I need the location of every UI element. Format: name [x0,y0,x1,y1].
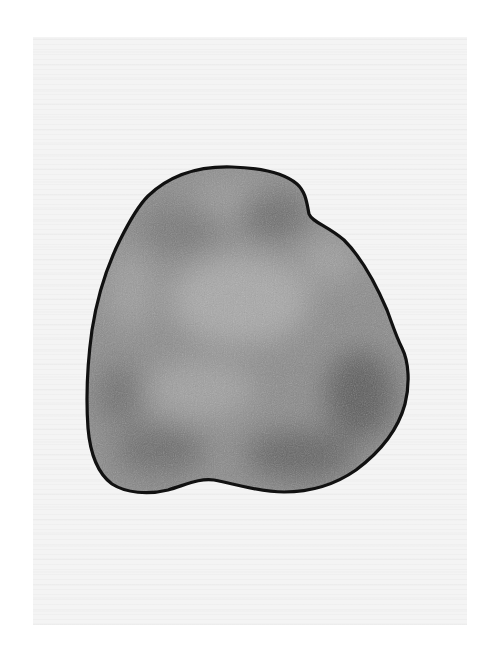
blob-fill [80,160,420,500]
blob-drawing [0,0,495,660]
